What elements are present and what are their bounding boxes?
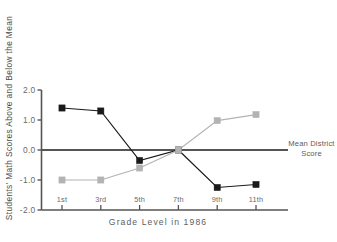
y-axis-tick-label: 0.0 xyxy=(10,145,36,155)
y-axis-tick-label: 1.0 xyxy=(10,115,36,125)
data-point-marker xyxy=(59,105,65,111)
x-axis-tick-label: 7th xyxy=(163,195,193,204)
reference-line-label-line1: Mean District xyxy=(286,139,337,149)
data-series-group xyxy=(59,105,259,191)
data-point-marker xyxy=(98,108,104,114)
data-point-marker xyxy=(253,181,259,187)
data-point-marker xyxy=(137,157,143,163)
data-point-marker xyxy=(137,165,143,171)
y-axis-tick-label: -2.0 xyxy=(10,205,36,215)
x-axis-tick-label: 3rd xyxy=(86,195,116,204)
reference-line-label: Mean District Score xyxy=(286,139,337,159)
data-point-marker xyxy=(214,184,220,190)
series-line-dark-series xyxy=(62,108,256,188)
data-point-marker xyxy=(253,112,259,118)
x-axis-tick-label: 1st xyxy=(47,195,77,204)
chart-figure: Students' Math Scores Above and Below th… xyxy=(0,0,337,242)
data-point-marker xyxy=(98,177,104,183)
y-axis-tick-label: 2.0 xyxy=(10,85,36,95)
x-axis-title: Grade Level in 1986 xyxy=(42,217,274,227)
plot-canvas xyxy=(0,0,337,242)
series-line-light-series xyxy=(62,115,256,180)
x-axis-tick-label: 5th xyxy=(125,195,155,204)
data-point-marker xyxy=(59,177,65,183)
data-point-marker xyxy=(214,118,220,124)
x-axis-tick-label: 11th xyxy=(241,195,271,204)
x-axis-tick-label: 9th xyxy=(202,195,232,204)
reference-line-label-line2: Score xyxy=(286,149,337,159)
y-axis-tick-label: -1.0 xyxy=(10,175,36,185)
data-point-marker xyxy=(175,147,181,153)
